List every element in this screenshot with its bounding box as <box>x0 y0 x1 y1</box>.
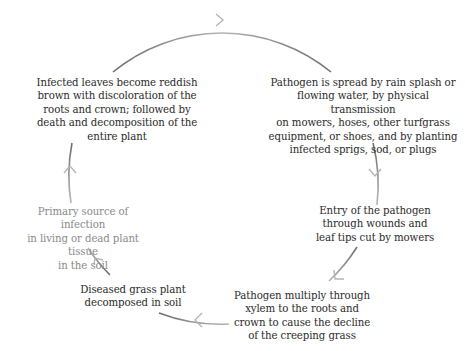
arrow-left-upper <box>64 143 76 203</box>
chevron-up-icon <box>64 166 76 173</box>
node-diseased-plant: Diseased grass plant decomposed in soil <box>78 283 188 310</box>
node-pathogen-entry: Entry of the pathogen through wounds and… <box>312 204 438 244</box>
disease-cycle-diagram: Infected leaves become reddish brown wit… <box>0 0 465 351</box>
chevron-right-icon <box>216 14 223 26</box>
node-primary-source: Primary source of infection in living or… <box>20 205 146 272</box>
node-infected-leaves: Infected leaves become reddish brown wit… <box>22 76 212 143</box>
node-pathogen-multiply: Pathogen multiply through xylem to the r… <box>226 289 378 343</box>
arrow-top <box>113 14 331 72</box>
chevron-left-icon <box>195 313 202 327</box>
arrow-right-lower <box>329 247 357 281</box>
arrow-bottom <box>159 313 229 327</box>
node-pathogen-spread: Pathogen is spread by rain splash or flo… <box>268 76 458 156</box>
chevron-down-icon <box>369 169 381 176</box>
